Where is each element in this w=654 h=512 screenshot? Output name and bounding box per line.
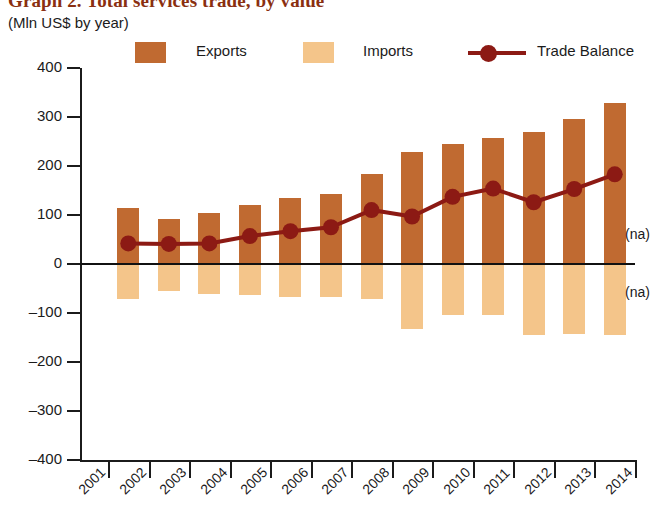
x-axis-label: 2012 (521, 464, 554, 497)
y-axis-label: –400 (16, 450, 62, 467)
bar-exports (320, 194, 342, 264)
y-axis-label: 200 (16, 156, 62, 173)
bar-imports (117, 264, 139, 299)
bar-imports (198, 264, 220, 294)
x-axis-label: 2003 (156, 464, 189, 497)
bar-exports (361, 174, 383, 264)
x-axis-label: 2004 (197, 464, 230, 497)
bar-imports (442, 264, 464, 315)
y-axis-tick (67, 214, 80, 216)
y-axis-tick (67, 116, 80, 118)
bar-imports (482, 264, 504, 315)
y-axis-tick (67, 361, 80, 363)
bar-exports (482, 138, 504, 264)
y-axis-label: 400 (16, 58, 62, 75)
y-axis-label: 0 (16, 254, 62, 271)
x-axis-label: 2013 (561, 464, 594, 497)
x-axis-tick (513, 460, 515, 478)
bar-imports (604, 264, 626, 335)
plot-area: 4003002001000–100–200–300–40020012002200… (0, 0, 654, 512)
bar-exports (523, 132, 545, 264)
bar-exports (239, 205, 261, 264)
bar-imports (361, 264, 383, 299)
bar-exports (279, 198, 301, 264)
x-axis-label: 2010 (440, 464, 473, 497)
na-annotation: (na) (625, 226, 650, 242)
x-axis-label: 2014 (602, 464, 635, 497)
y-axis-label: –100 (16, 303, 62, 320)
y-axis-tick (67, 263, 80, 265)
x-axis-tick (189, 460, 191, 478)
x-axis-label: 2011 (480, 465, 513, 498)
zero-line (80, 263, 635, 265)
y-axis-label: 300 (16, 107, 62, 124)
x-axis-line (108, 460, 637, 462)
bar-exports (563, 119, 585, 264)
y-axis-label: –300 (16, 401, 62, 418)
x-axis-label: 2008 (359, 464, 392, 497)
bar-imports (320, 264, 342, 297)
bar-imports (401, 264, 423, 329)
x-axis-label: 2005 (237, 464, 270, 497)
y-axis-label: 100 (16, 205, 62, 222)
x-axis-tick (594, 460, 596, 478)
y-axis-tick (67, 67, 80, 69)
x-axis-label: 2001 (75, 464, 108, 497)
na-annotation: (na) (625, 284, 650, 300)
bar-exports (401, 152, 423, 264)
bar-imports (523, 264, 545, 335)
y-axis-tick (67, 312, 80, 314)
bar-exports (198, 213, 220, 264)
bar-imports (279, 264, 301, 297)
axis-corner-stub (80, 460, 108, 462)
chart-figure: Graph 2. Total services trade, by value … (0, 0, 654, 512)
bar-exports (117, 208, 139, 264)
x-axis-label: 2007 (318, 464, 351, 497)
x-axis-tick (270, 460, 272, 478)
y-axis-tick (67, 410, 80, 412)
bar-exports (158, 219, 180, 264)
bar-imports (563, 264, 585, 334)
x-axis-tick (351, 460, 353, 478)
y-axis-tick (67, 165, 80, 167)
y-axis-tick (67, 459, 80, 461)
bar-exports (442, 144, 464, 264)
y-axis-label: –200 (16, 352, 62, 369)
x-axis-label: 2006 (278, 464, 311, 497)
x-axis-label: 2009 (399, 464, 432, 497)
x-axis-label: 2002 (116, 464, 149, 497)
x-axis-tick (432, 460, 434, 478)
bar-imports (239, 264, 261, 295)
bar-exports (604, 103, 626, 264)
bar-imports (158, 264, 180, 291)
